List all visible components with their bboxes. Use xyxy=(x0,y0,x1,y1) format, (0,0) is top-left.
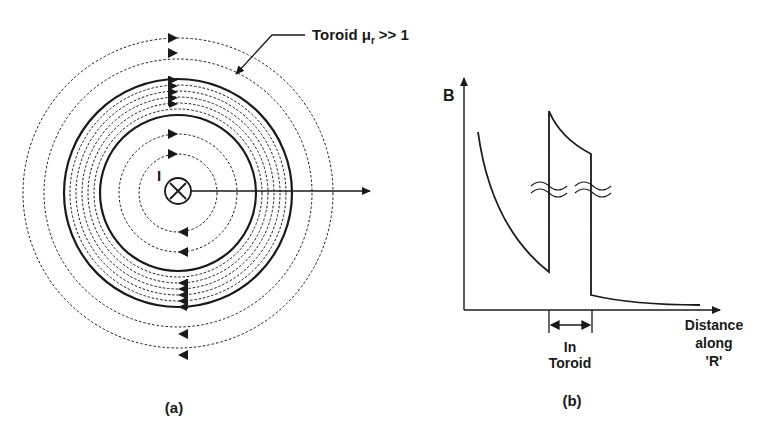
region-label-line2: Toroid xyxy=(549,355,592,371)
x-axis-label-line3: 'R' xyxy=(706,353,723,369)
current-into-page-icon xyxy=(165,178,191,204)
y-axis-label: B xyxy=(443,87,455,104)
x-axis-label-line2: along xyxy=(695,335,732,351)
current-label: I xyxy=(157,167,161,184)
panel-b-field-plot: B In Toroid Distance along 'R' (b) xyxy=(443,78,743,409)
arrowheads-top xyxy=(168,33,178,159)
toroid-label: Toroid μr>> 1 xyxy=(312,26,409,46)
caption-a: (a) xyxy=(165,399,183,416)
arrowheads-bottom xyxy=(178,227,188,360)
toroid-region-marker xyxy=(549,310,592,333)
axis-break-symbols xyxy=(531,182,611,197)
b-field-curve xyxy=(478,111,700,305)
region-label-line1: In xyxy=(564,339,576,355)
caption-b: (b) xyxy=(562,392,581,409)
panel-a-toroid-diagram: I Toroid μr>> 1 (a) xyxy=(23,26,409,416)
figure-canvas: I Toroid μr>> 1 (a) B In T xyxy=(0,0,766,431)
x-axis-label-line1: Distance xyxy=(685,317,744,333)
